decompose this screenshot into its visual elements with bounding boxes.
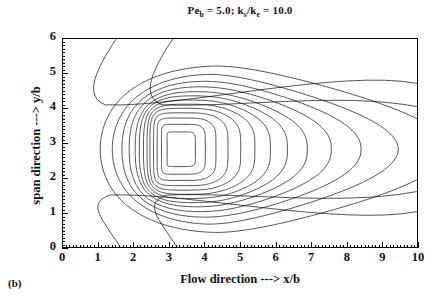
x-tick-minor (293, 245, 294, 248)
y-tick-minor (62, 196, 65, 197)
contour-line (94, 39, 417, 105)
x-tick-minor (301, 245, 302, 248)
x-tick-minor (361, 245, 362, 248)
y-tick-major (62, 108, 68, 109)
y-tick-minor (62, 49, 65, 50)
x-tick-minor (208, 245, 209, 248)
x-tick-major (169, 242, 170, 248)
title-pe-value: = 5.0; (207, 4, 235, 16)
contour-line (157, 118, 216, 180)
y-tick-major (62, 213, 68, 214)
x-tick-minor (400, 245, 401, 248)
y-tick-minor (62, 192, 65, 193)
x-tick-minor (140, 245, 141, 248)
x-tick-minor (261, 245, 262, 248)
x-tick-minor (215, 245, 216, 248)
x-tick-minor (368, 245, 369, 248)
x-tick-major (240, 242, 241, 248)
x-tick-minor (404, 245, 405, 248)
y-tick-minor (62, 112, 65, 113)
y-tick-minor (62, 98, 65, 99)
contour-line (167, 132, 195, 167)
plot-frame (62, 38, 418, 248)
y-tick-minor (62, 66, 65, 67)
y-tick-minor (62, 56, 65, 57)
x-tick-minor (112, 245, 113, 248)
x-tick-minor (244, 245, 245, 248)
x-tick-minor (212, 245, 213, 248)
x-tick-minor (333, 245, 334, 248)
x-tick-minor (119, 245, 120, 248)
x-tick-minor (272, 245, 273, 248)
x-tick-minor (108, 245, 109, 248)
contour-line (154, 113, 228, 186)
x-tick-label: 3 (156, 250, 182, 265)
x-tick-minor (76, 245, 77, 248)
y-tick-minor (62, 126, 65, 127)
x-tick-minor (187, 245, 188, 248)
y-tick-minor (62, 241, 65, 242)
contour-line (150, 39, 417, 107)
x-tick-minor (144, 245, 145, 248)
y-tick-minor (62, 77, 65, 78)
y-tick-minor (62, 119, 65, 120)
y-tick-minor (62, 45, 65, 46)
x-tick-minor (197, 245, 198, 248)
x-tick-minor (155, 245, 156, 248)
y-tick-major (62, 178, 68, 179)
x-tick-major (133, 242, 134, 248)
x-tick-major (382, 242, 383, 248)
x-tick-minor (73, 245, 74, 248)
x-tick-minor (329, 245, 330, 248)
y-tick-minor (62, 224, 65, 225)
x-tick-minor (336, 245, 337, 248)
x-tick-minor (397, 245, 398, 248)
x-tick-label: 4 (191, 250, 217, 265)
y-tick-minor (62, 234, 65, 235)
y-tick-minor (62, 91, 65, 92)
x-tick-minor (101, 245, 102, 248)
contour-line (135, 92, 307, 207)
y-tick-minor (62, 217, 65, 218)
x-tick-minor (322, 245, 323, 248)
x-tick-minor (354, 245, 355, 248)
x-tick-minor (286, 245, 287, 248)
y-tick-minor (62, 206, 65, 207)
y-tick-minor (62, 63, 65, 64)
x-tick-minor (69, 245, 70, 248)
x-tick-minor (315, 245, 316, 248)
title-k-denominator-subscript: e (257, 10, 261, 19)
y-tick-major (62, 143, 68, 144)
x-tick-label: 5 (227, 250, 253, 265)
x-tick-minor (183, 245, 184, 248)
x-tick-minor (375, 245, 376, 248)
x-tick-minor (343, 245, 344, 248)
x-tick-minor (105, 245, 106, 248)
y-tick-minor (62, 42, 65, 43)
x-tick-minor (80, 245, 81, 248)
y-tick-minor (62, 245, 65, 246)
x-tick-minor (172, 245, 173, 248)
x-tick-minor (279, 245, 280, 248)
x-tick-minor (87, 245, 88, 248)
x-tick-minor (226, 245, 227, 248)
y-tick-minor (62, 238, 65, 239)
figure-panel: Peb= 5.0;ks/ke= 10.0 0123456789100123456… (0, 0, 441, 305)
y-tick-minor (62, 136, 65, 137)
y-tick-minor (62, 80, 65, 81)
x-tick-minor (318, 245, 319, 248)
x-tick-minor (247, 245, 248, 248)
contour-line (98, 195, 417, 247)
x-tick-minor (236, 245, 237, 248)
x-tick-minor (350, 245, 351, 248)
x-tick-minor (325, 245, 326, 248)
y-tick-minor (62, 182, 65, 183)
x-tick-major (98, 242, 99, 248)
x-tick-major (347, 242, 348, 248)
x-tick-minor (94, 245, 95, 248)
x-tick-minor (229, 245, 230, 248)
title-k-slash: /k (247, 4, 257, 16)
y-tick-minor (62, 59, 65, 60)
contour-line (143, 100, 270, 198)
y-tick-minor (62, 203, 65, 204)
